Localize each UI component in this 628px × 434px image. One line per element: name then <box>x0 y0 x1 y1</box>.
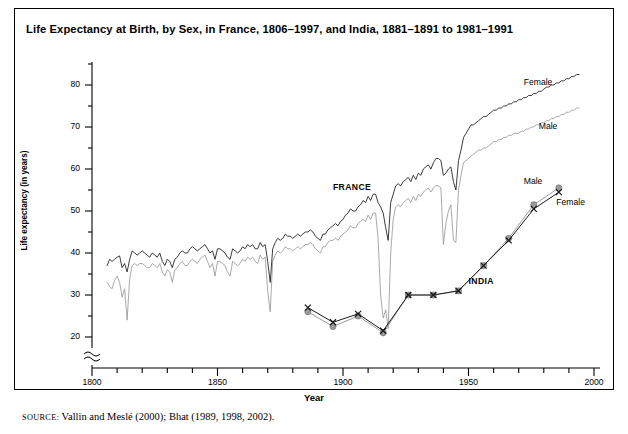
series-label-male: Male <box>524 176 543 186</box>
region-label-france: FRANCE <box>333 182 371 192</box>
x-tick-label: 1850 <box>198 377 238 387</box>
y-tick-label: 80 <box>56 79 80 89</box>
y-tick-label: 60 <box>56 163 80 173</box>
y-axis-label: Life expectancy (in years) <box>20 131 29 271</box>
series-label-female: Female <box>524 77 553 87</box>
figure-container: Life Expectancy at Birth, by Sex, in Fra… <box>0 0 628 434</box>
y-tick-label: 50 <box>56 205 80 215</box>
x-tick-label: 1950 <box>449 377 489 387</box>
x-tick-label: 1800 <box>72 377 112 387</box>
chart-title: Life Expectancy at Birth, by Sex, in Fra… <box>26 23 513 35</box>
source-text: Vallin and Meslé (2000); Bhat (1989, 199… <box>62 411 275 422</box>
x-tick-label: 1900 <box>323 377 363 387</box>
series-label-female: Female <box>556 197 585 207</box>
y-tick-label: 40 <box>56 247 80 257</box>
x-tick-label: 2000 <box>574 377 614 387</box>
y-tick-label: 70 <box>56 121 80 131</box>
series-label-male: Male <box>539 121 558 131</box>
chart-frame <box>14 8 614 390</box>
x-axis-label: Year <box>0 392 628 403</box>
source-note: SOURCE: Vallin and Meslé (2000); Bhat (1… <box>22 411 274 422</box>
source-label: SOURCE: <box>22 413 59 422</box>
y-tick-label: 30 <box>56 289 80 299</box>
region-label-india: INDIA <box>469 276 494 286</box>
y-tick-label: 20 <box>56 331 80 341</box>
